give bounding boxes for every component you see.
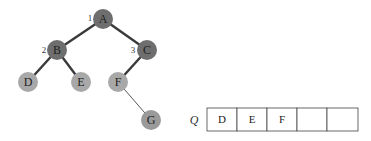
visit-order-label: 1 — [88, 13, 93, 23]
node-label: F — [115, 75, 122, 89]
tree-node-f: F — [108, 72, 128, 92]
tree-node-d: D — [18, 72, 38, 92]
tree-node-b: B 2 — [42, 40, 67, 60]
node-label: B — [53, 43, 61, 57]
queue-cell-3 — [297, 108, 327, 131]
tree-node-g: G — [141, 110, 161, 130]
bfs-tree-diagram: A 1 B 2 C 3 D E F G Q D E F — [0, 0, 371, 141]
queue-label: Q — [190, 113, 199, 127]
queue: Q D E F — [190, 108, 358, 131]
visit-order-label: 3 — [131, 45, 136, 55]
queue-cell-value: F — [279, 113, 285, 125]
queue-cell-4 — [327, 108, 358, 131]
node-label: A — [99, 12, 108, 26]
node-label: C — [143, 43, 151, 57]
tree-edges — [28, 19, 151, 120]
queue-cell-value: E — [249, 113, 256, 125]
node-label: E — [77, 75, 84, 89]
tree-node-c: C 3 — [131, 40, 157, 60]
visit-order-label: 2 — [42, 45, 47, 55]
queue-cell-value: D — [218, 113, 226, 125]
node-label: D — [24, 75, 33, 89]
node-label: G — [147, 113, 156, 127]
tree-node-e: E — [71, 72, 91, 92]
